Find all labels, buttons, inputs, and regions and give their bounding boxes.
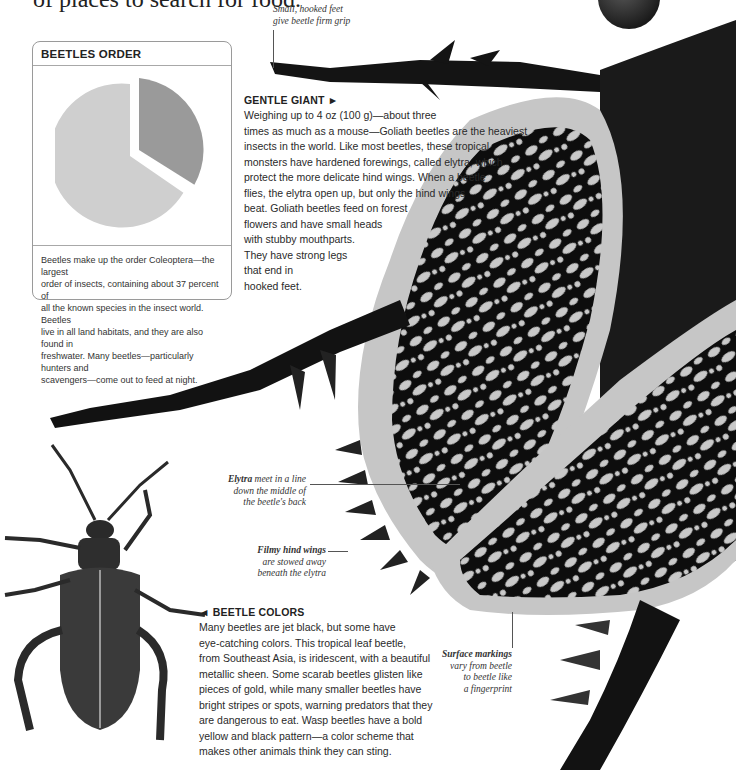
caption-line: the beetle's back (200, 497, 306, 509)
beetle-colors-text: Many beetles are jet black, but some hav… (199, 620, 432, 760)
caption-line: vary from beetle (420, 661, 512, 673)
text-line: yellow and black pattern—a color scheme … (199, 729, 432, 745)
pie-chart-svg (55, 76, 215, 236)
panel-line: order of insects, containing about 37 pe… (41, 278, 225, 302)
text-line: are dangerous to eat. Wasp beetles have … (199, 713, 432, 729)
gentle-giant-text: Weighing up to 4 oz (100 g)—about three … (244, 108, 527, 294)
caption-line: are stowed away (200, 557, 326, 569)
text-line: hooked feet. (244, 279, 527, 295)
caption-line: Small, hooked feet (273, 4, 350, 16)
caption-bold: Surface markings (420, 649, 512, 661)
panel-description: Beetles make up the order Coleoptera—the… (33, 246, 231, 386)
text-line: with stubby mouthparts. (244, 232, 527, 248)
caption-line: down the middle of (200, 486, 306, 498)
text-line: Many beetles are jet black, but some hav… (199, 620, 432, 636)
caption-text: meet in a line (252, 474, 306, 484)
text-line: flowers and have small heads (244, 217, 527, 233)
pie-slice-beetles (139, 78, 204, 185)
elytra-leader-line (310, 484, 460, 485)
panel-line: scavengers—come out to feed at night. (41, 374, 225, 386)
text-line: flies, the elytra open up, but only the … (244, 186, 527, 202)
feet-annotation: Small, hooked feet give beetle firm grip (273, 4, 350, 27)
beetles-order-panel: BEETLES ORDER Beetles make up the order … (32, 41, 232, 300)
caption-line: Elytra meet in a line (200, 474, 306, 486)
panel-line: Beetles make up the order Coleoptera—the… (41, 254, 225, 278)
text-line: from Southeast Asia, is iridescent, with… (199, 651, 432, 667)
caption-line: to beetle like (420, 672, 512, 684)
pie-chart (33, 66, 231, 246)
hind-wings-leader-line (328, 551, 348, 552)
caption-bold: Filmy hind wings (200, 545, 326, 557)
hind-wings-annotation: Filmy hind wings are stowed away beneath… (200, 545, 326, 580)
caption-bold: Elytra (228, 474, 252, 484)
text-line: Weighing up to 4 oz (100 g)—about three (244, 108, 527, 124)
elytra-annotation: Elytra meet in a line down the middle of… (200, 474, 306, 509)
text-line: insects in the world. Like most beetles,… (244, 139, 527, 155)
text-line: protect the more delicate hind wings. Wh… (244, 170, 527, 186)
text-line: metallic sheen. Some scarab beetles glis… (199, 667, 432, 683)
text-line: eye-catching colors. This tropical leaf … (199, 636, 432, 652)
caption-line: a fingerprint (420, 684, 512, 696)
text-line: bright stripes or spots, warning predato… (199, 698, 432, 714)
text-line: monsters have hardened forewings, called… (244, 155, 527, 171)
text-line: that end in (244, 263, 527, 279)
gentle-giant-heading: GENTLE GIANT ► (244, 94, 338, 106)
beetle-colors-heading: ◄ BEETLE COLORS (199, 606, 305, 618)
panel-line: freshwater. Many beetles—particularly hu… (41, 350, 225, 374)
text-line: pieces of gold, while many smaller beetl… (199, 682, 432, 698)
leaf-beetle-image (0, 430, 220, 750)
feet-leader-line (273, 30, 274, 68)
panel-title: BEETLES ORDER (33, 42, 231, 66)
surface-markings-annotation: Surface markings vary from beetle to bee… (420, 649, 512, 695)
panel-line: all the known species in the insect worl… (41, 302, 225, 326)
caption-line: beneath the elytra (200, 568, 326, 580)
text-line: beat. Goliath beetles feed on forest (244, 201, 527, 217)
text-line: makes other animals think they can sting… (199, 744, 432, 760)
panel-line: live in all land habitats, and they are … (41, 326, 225, 350)
caption-line: give beetle firm grip (273, 16, 350, 28)
surface-leader-line (512, 612, 513, 648)
text-line: times as much as a mouse—Goliath beetles… (244, 124, 527, 140)
text-line: They have strong legs (244, 248, 527, 264)
